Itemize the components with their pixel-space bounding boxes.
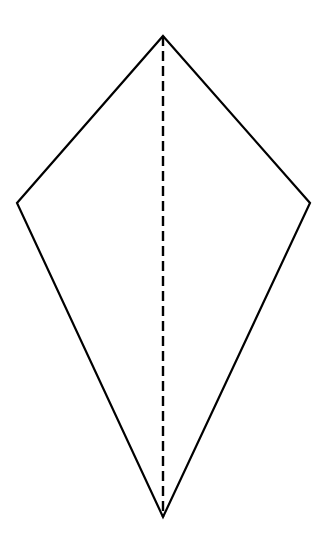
figure-canvas [0,0,333,552]
kite-diagram-svg [0,0,333,552]
